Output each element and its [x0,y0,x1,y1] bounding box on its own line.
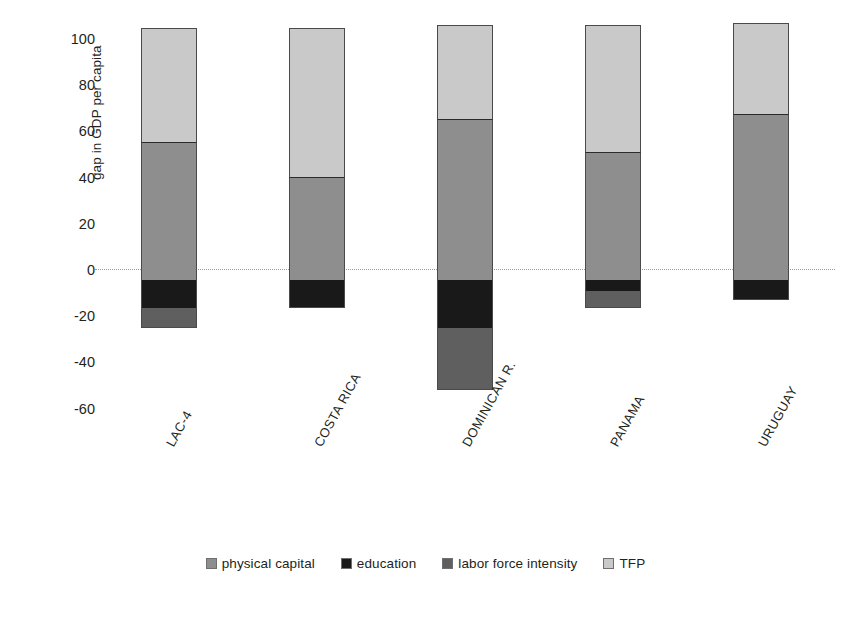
legend-item[interactable]: TFP [603,556,645,571]
legend-item[interactable]: education [341,556,416,571]
bar-segment-physical-capital[interactable] [585,153,641,281]
chart-container: gap in GDP per capita 100 80 60 40 20 0 … [0,0,851,625]
legend-item[interactable]: labor force intensity [442,556,577,571]
y-tick-label: -20 [49,309,95,324]
y-axis-tick-labels: 100 80 60 40 20 0 -20 -40 -60 [43,30,95,430]
y-tick-label: 40 [49,171,95,186]
plot-area: gap in GDP per capita 100 80 60 40 20 0 … [95,30,835,430]
bar-segment-tfp[interactable] [141,28,197,143]
bar-segment-labor-force-intensity[interactable] [141,308,197,328]
bar-segment-tfp[interactable] [733,23,789,116]
legend-label: education [357,556,416,571]
bar-segment-education[interactable] [141,280,197,308]
bar-segment-physical-capital[interactable] [141,143,197,281]
bar-group[interactable] [437,30,493,430]
bar-segment-physical-capital[interactable] [289,178,345,281]
y-tick-label: 80 [49,78,95,93]
bar-group[interactable] [733,30,789,430]
y-tick-label: 0 [49,263,95,278]
bar-segment-physical-capital[interactable] [437,120,493,280]
legend-swatch-icon [442,558,453,569]
y-tick-label: 20 [49,217,95,232]
bar-segment-physical-capital[interactable] [733,115,789,280]
y-tick-label: 60 [49,124,95,139]
legend-label: labor force intensity [458,556,577,571]
bar-segment-education[interactable] [289,280,345,308]
bar-segment-tfp[interactable] [585,25,641,153]
legend-item[interactable]: physical capital [206,556,315,571]
y-tick-label: -40 [49,355,95,370]
bar-group[interactable] [585,30,641,430]
legend-label: physical capital [222,556,315,571]
bar-series-layer [95,30,835,430]
y-tick-label: 100 [49,32,95,47]
legend-swatch-icon [603,558,614,569]
bar-segment-tfp[interactable] [437,25,493,120]
legend-swatch-icon [341,558,352,569]
bar-segment-education[interactable] [733,280,789,300]
bar-segment-labor-force-intensity[interactable] [437,328,493,391]
y-tick-label: -60 [49,402,95,417]
chart-legend: physical capitaleducationlabor force int… [0,556,851,571]
bar-segment-education[interactable] [437,280,493,328]
legend-label: TFP [619,556,645,571]
bar-segment-education[interactable] [585,280,641,291]
bar-segment-labor-force-intensity[interactable] [585,291,641,307]
bar-group[interactable] [289,30,345,430]
bar-group[interactable] [141,30,197,430]
bar-segment-tfp[interactable] [289,28,345,178]
legend-swatch-icon [206,558,217,569]
